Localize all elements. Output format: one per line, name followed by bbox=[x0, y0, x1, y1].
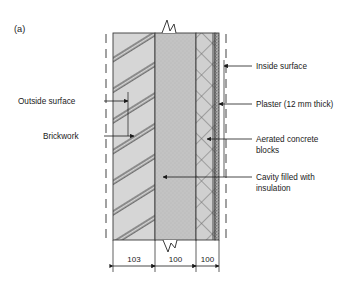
break-symbol-bottom bbox=[163, 240, 177, 252]
layer-brickwork bbox=[113, 33, 155, 240]
label-brickwork: Brickwork bbox=[43, 132, 79, 141]
label-aerated-blocks-line1: Aerated concrete bbox=[256, 135, 319, 144]
wall-section-drawing: (a) Outside surface Brickwork Inside sur… bbox=[0, 0, 350, 283]
label-plaster: Plaster (12 mm thick) bbox=[256, 100, 334, 109]
panel-label: (a) bbox=[14, 24, 25, 34]
dimension-blocks: 100 bbox=[201, 255, 215, 264]
label-outside-surface: Outside surface bbox=[18, 97, 76, 106]
layer-cavity-insulation bbox=[155, 33, 196, 240]
layer-aerated-concrete-blocks bbox=[196, 33, 215, 240]
break-symbol-top bbox=[162, 20, 176, 33]
leader-plaster bbox=[219, 104, 252, 139]
layer-plaster bbox=[215, 33, 219, 240]
wall-section-figure: (a) Outside surface Brickwork Inside sur… bbox=[0, 0, 350, 283]
label-inside-surface: Inside surface bbox=[256, 62, 307, 71]
dimension-brickwork: 103 bbox=[127, 255, 141, 264]
dimension-cavity: 100 bbox=[169, 255, 183, 264]
label-cavity-line1: Cavity filled with bbox=[256, 173, 315, 182]
label-cavity-line2: insulation bbox=[256, 184, 291, 193]
label-aerated-blocks-line2: blocks bbox=[256, 146, 279, 155]
leader-inside-surface bbox=[224, 60, 252, 104]
